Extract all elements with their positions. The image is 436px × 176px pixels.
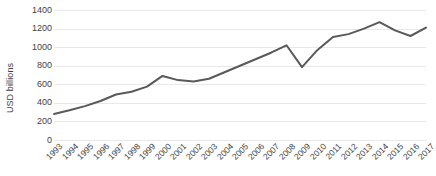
y-axis-tick-label: 1400	[8, 6, 52, 15]
y-axis-tick-label: 1200	[8, 24, 52, 33]
y-axis-tick-label: 800	[8, 61, 52, 70]
plot-area	[54, 10, 426, 140]
y-axis-tick-label: 0	[8, 136, 52, 145]
y-axis-tick-label: 1000	[8, 43, 52, 52]
y-axis-tick-label: 200	[8, 117, 52, 126]
y-axis-tick-label: 600	[8, 80, 52, 89]
gridline	[54, 140, 426, 141]
series-line-usd-billions	[54, 10, 426, 140]
y-axis-tick-label: 400	[8, 98, 52, 107]
y-axis-tick-labels: 1400120010008006004002000	[0, 0, 52, 176]
x-axis-tick-labels: 1993199419951996199719981999200020012002…	[54, 142, 426, 176]
